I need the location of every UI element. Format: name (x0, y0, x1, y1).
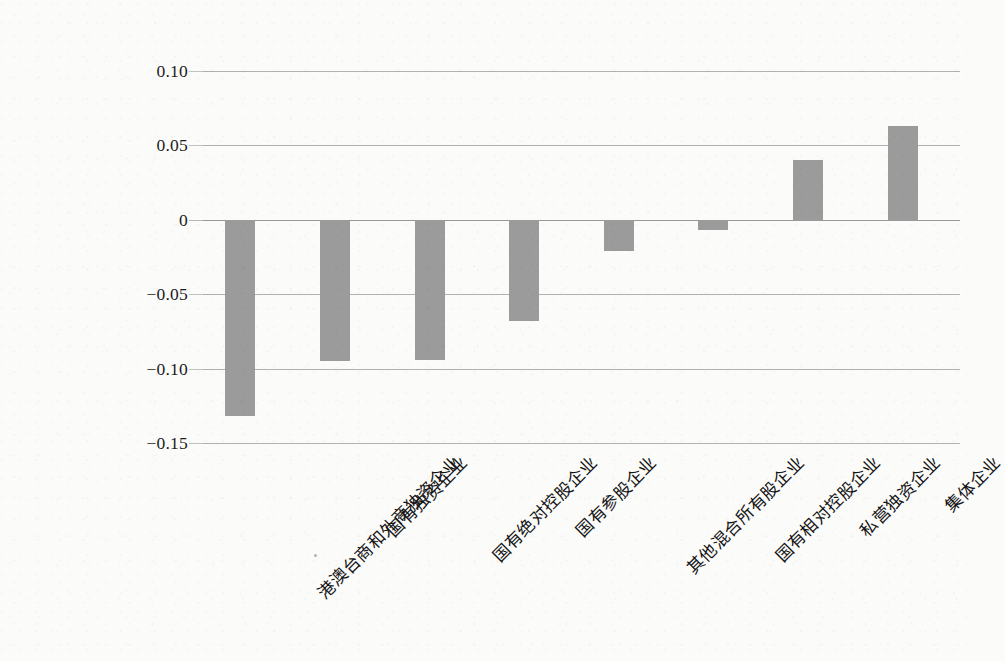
bar-chart-figure: 0.10 0.05 0 −0.05 −0.10 −0.15 港澳台商和外商独资企… (40, 16, 1005, 661)
gridline-neg-0.15 (203, 443, 960, 444)
bar-0 (225, 220, 255, 416)
y-tick-label-5: −0.15 (78, 433, 188, 454)
gridline-neg-0.05 (203, 294, 960, 295)
plot-area (203, 71, 960, 443)
y-tick-label-1: 0.05 (78, 135, 188, 156)
bar-4 (604, 220, 634, 251)
gridline-0.10 (203, 71, 960, 72)
y-tick-label-4: −0.10 (78, 358, 188, 379)
bar-7 (888, 126, 918, 220)
x-label-7: 集体企业 (938, 449, 1005, 516)
y-axis-tick-labels: 0.10 0.05 0 −0.05 −0.10 −0.15 (78, 71, 188, 443)
x-label-1: 国有独资企业 (380, 449, 472, 541)
gridline-0.05 (203, 145, 960, 146)
gridline-zero (203, 220, 960, 221)
bar-2 (415, 220, 445, 360)
bar-5 (698, 220, 728, 230)
bar-1 (320, 220, 350, 361)
y-tick-label-3: −0.05 (78, 284, 188, 305)
y-tick-label-2: 0 (78, 209, 188, 230)
x-axis-category-labels: 港澳台商和外商独资企业 国有独资企业 国有绝对控股企业 国有参股企业 其他混合所… (203, 448, 960, 648)
scan-speck (314, 554, 317, 557)
bar-3 (509, 220, 539, 321)
y-tick-label-0: 0.10 (78, 61, 188, 82)
bar-6 (793, 160, 823, 220)
gridline-neg-0.10 (203, 369, 960, 370)
